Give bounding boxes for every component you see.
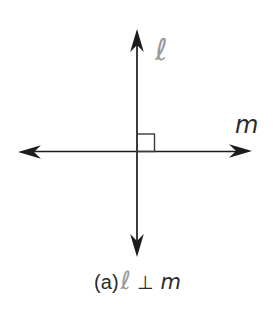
- figure: ℓ m (a) ℓ ⊥ m: [0, 0, 275, 317]
- label-line-l: ℓ: [154, 32, 167, 67]
- caption-line-l: ℓ: [121, 266, 131, 295]
- right-angle-marker: [137, 134, 155, 152]
- caption-index: (a): [94, 271, 118, 294]
- caption-line-m: m: [160, 270, 180, 294]
- perpendicular-symbol: ⊥: [137, 271, 154, 293]
- figure-caption: (a) ℓ ⊥ m: [0, 266, 275, 302]
- label-line-m: m: [235, 111, 258, 139]
